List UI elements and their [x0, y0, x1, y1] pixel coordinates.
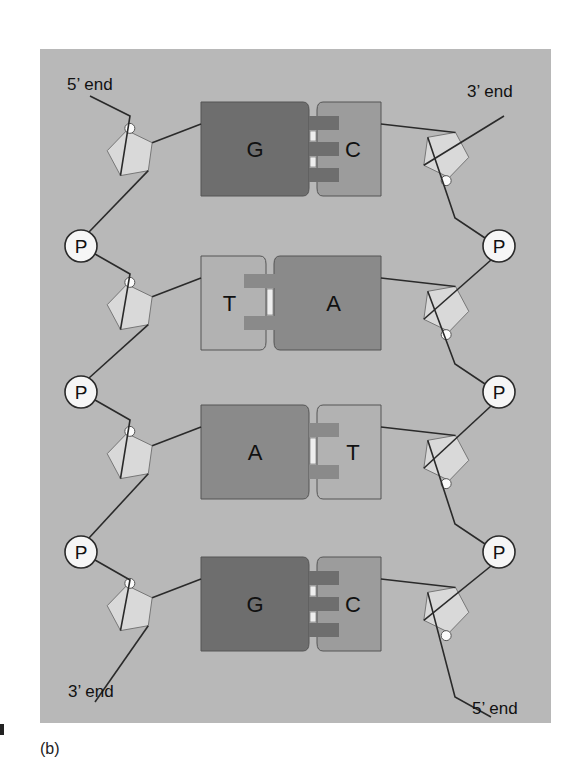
hydrogen-bond-tab	[309, 142, 339, 156]
hydrogen-bond-gap	[310, 131, 316, 141]
phosphate-label: P	[75, 236, 88, 257]
phosphate-label: P	[493, 382, 506, 403]
hydrogen-bond-tab	[244, 274, 276, 288]
base-letter: G	[246, 592, 263, 617]
base-letter: T	[346, 440, 359, 465]
base-letter: C	[345, 137, 361, 162]
hydrogen-bond-tab	[309, 623, 339, 637]
oxygen-marker	[125, 426, 135, 436]
phosphate-label: P	[493, 236, 506, 257]
corner-mark	[0, 724, 4, 735]
hydrogen-bond-gap	[310, 438, 316, 464]
label-3prime-end-top-right: 3’ end	[467, 82, 513, 101]
label-5prime-end-top-left: 5’ end	[67, 75, 113, 94]
hydrogen-bond-gap	[310, 157, 316, 167]
diagram-canvas: GCTAATGCPPPPPP5’ end3’ end3’ end5’ end	[0, 0, 572, 763]
hydrogen-bond-gap	[267, 289, 273, 315]
oxygen-marker	[125, 123, 135, 133]
phosphate-label: P	[75, 382, 88, 403]
base-letter: C	[345, 592, 361, 617]
hydrogen-bond-tab	[309, 465, 339, 479]
hydrogen-bond-gap	[310, 612, 316, 622]
phosphate-label: P	[493, 542, 506, 563]
phosphate-label: P	[75, 542, 88, 563]
hydrogen-bond-gap	[310, 586, 316, 596]
oxygen-marker	[441, 631, 451, 641]
base-letter: A	[248, 440, 263, 465]
base-letter: A	[326, 291, 341, 316]
label-5prime-end-bottom-right: 5’ end	[472, 699, 518, 718]
hydrogen-bond-tab	[309, 597, 339, 611]
panel-label: (b)	[40, 740, 60, 758]
base-letter: G	[246, 137, 263, 162]
hydrogen-bond-tab	[309, 571, 339, 585]
hydrogen-bond-tab	[309, 423, 339, 437]
dna-double-strand-diagram: GCTAATGCPPPPPP5’ end3’ end3’ end5’ end (…	[0, 0, 572, 763]
label-3prime-end-bottom-left: 3’ end	[68, 682, 114, 701]
hydrogen-bond-tab	[309, 168, 339, 182]
base-letter: T	[223, 291, 236, 316]
hydrogen-bond-tab	[244, 316, 276, 330]
hydrogen-bond-tab	[309, 116, 339, 130]
